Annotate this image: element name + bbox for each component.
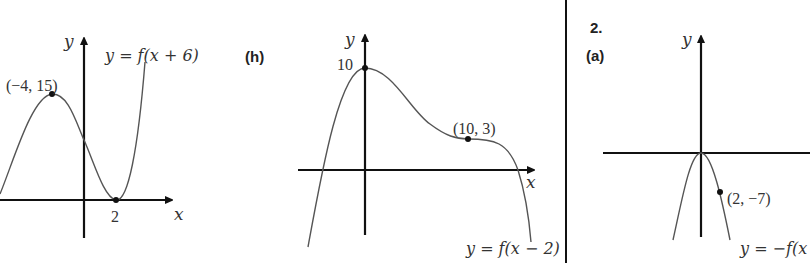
min-point (113, 197, 119, 203)
y-axis-label: y (681, 29, 692, 49)
y-axis-label: y (344, 29, 355, 49)
curve-f-x-minus-2 (308, 68, 531, 247)
y-tick-label: 10 (337, 56, 353, 73)
max-point (362, 65, 368, 71)
point-label: (2, −7) (727, 190, 771, 208)
part-label-a: (a) (586, 47, 604, 64)
graph-g: y x y = f(x + 6) (−4, 15) 2 (0, 31, 199, 238)
part-label-h: (h) (245, 48, 264, 65)
point-2-neg7 (717, 189, 723, 195)
x-tick-label: 2 (111, 208, 119, 225)
graph-h: (h) y x 10 (10, 3) y = f(x − 2) (245, 29, 560, 258)
x-axis-label: x (174, 204, 184, 224)
question-number: 2. (590, 19, 603, 36)
curve-label: y = f(x + 6) (104, 46, 199, 65)
max-point-label: (−4, 15) (6, 77, 58, 95)
point-label: (10, 3) (453, 120, 496, 138)
x-axis-label: x (526, 172, 536, 192)
curve-label: y = f(x − 2) (465, 239, 560, 258)
curve-label: y = −f(x (739, 239, 807, 258)
graph-2a: 2. (a) y (2, −7) y = −f(x (586, 19, 810, 258)
graphs-canvas: y x y = f(x + 6) (−4, 15) 2 (h) y x 10 (… (0, 0, 810, 263)
y-axis-label: y (63, 31, 74, 51)
